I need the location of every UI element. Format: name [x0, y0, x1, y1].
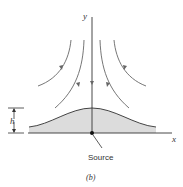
streamline-outer-left	[38, 40, 71, 86]
flow-diagram: y x h Source (b)	[0, 0, 183, 187]
source-label: Source	[88, 153, 114, 162]
height-label: h	[10, 116, 15, 126]
figure-caption: (b)	[86, 173, 96, 182]
source-leader	[93, 135, 102, 148]
arrow-icon	[59, 65, 127, 87]
source-point	[90, 131, 94, 135]
streamline-inner-right	[100, 40, 129, 108]
dim-arrow-down-icon	[12, 129, 16, 133]
hump-region	[29, 108, 156, 133]
x-axis-label: x	[171, 134, 176, 144]
dim-arrow-up-icon	[12, 108, 16, 112]
y-axis-label: y	[82, 11, 87, 21]
streamline-outer-right	[114, 40, 146, 86]
